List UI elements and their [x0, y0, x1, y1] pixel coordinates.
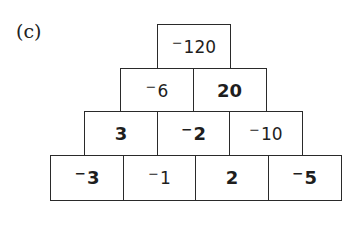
minus-sign: −: [249, 122, 260, 137]
cell-value: 10: [261, 124, 283, 144]
figure-label: (c): [16, 20, 41, 42]
pyramid-cell: −6: [120, 68, 194, 114]
cell-value: 6: [157, 81, 168, 101]
pyramid-cell: −10: [229, 111, 303, 157]
pyramid-cell: 3: [84, 111, 158, 157]
cell-value: 1: [160, 168, 171, 188]
minus-sign: −: [146, 79, 157, 94]
cell-value: 2: [226, 167, 239, 188]
pyramid-cell: −120: [157, 24, 231, 70]
cell-value: 3: [115, 123, 128, 144]
minus-sign: −: [172, 35, 183, 50]
cell-value: 3: [87, 167, 100, 188]
pyramid-cell: 2: [195, 155, 269, 201]
cell-value: 2: [193, 123, 206, 144]
cell-value: 5: [304, 167, 317, 188]
pyramid-cell: −5: [268, 155, 342, 201]
cell-value: 120: [184, 37, 216, 57]
minus-sign: −: [75, 165, 86, 181]
pyramid-cell: −1: [123, 155, 197, 201]
pyramid-cell: 20: [193, 68, 267, 114]
minus-sign: −: [292, 165, 303, 181]
pyramid-cell: −2: [157, 111, 231, 157]
minus-sign: −: [181, 121, 192, 137]
minus-sign: −: [148, 166, 159, 181]
pyramid-cell: −3: [50, 155, 124, 201]
cell-value: 20: [217, 80, 242, 101]
